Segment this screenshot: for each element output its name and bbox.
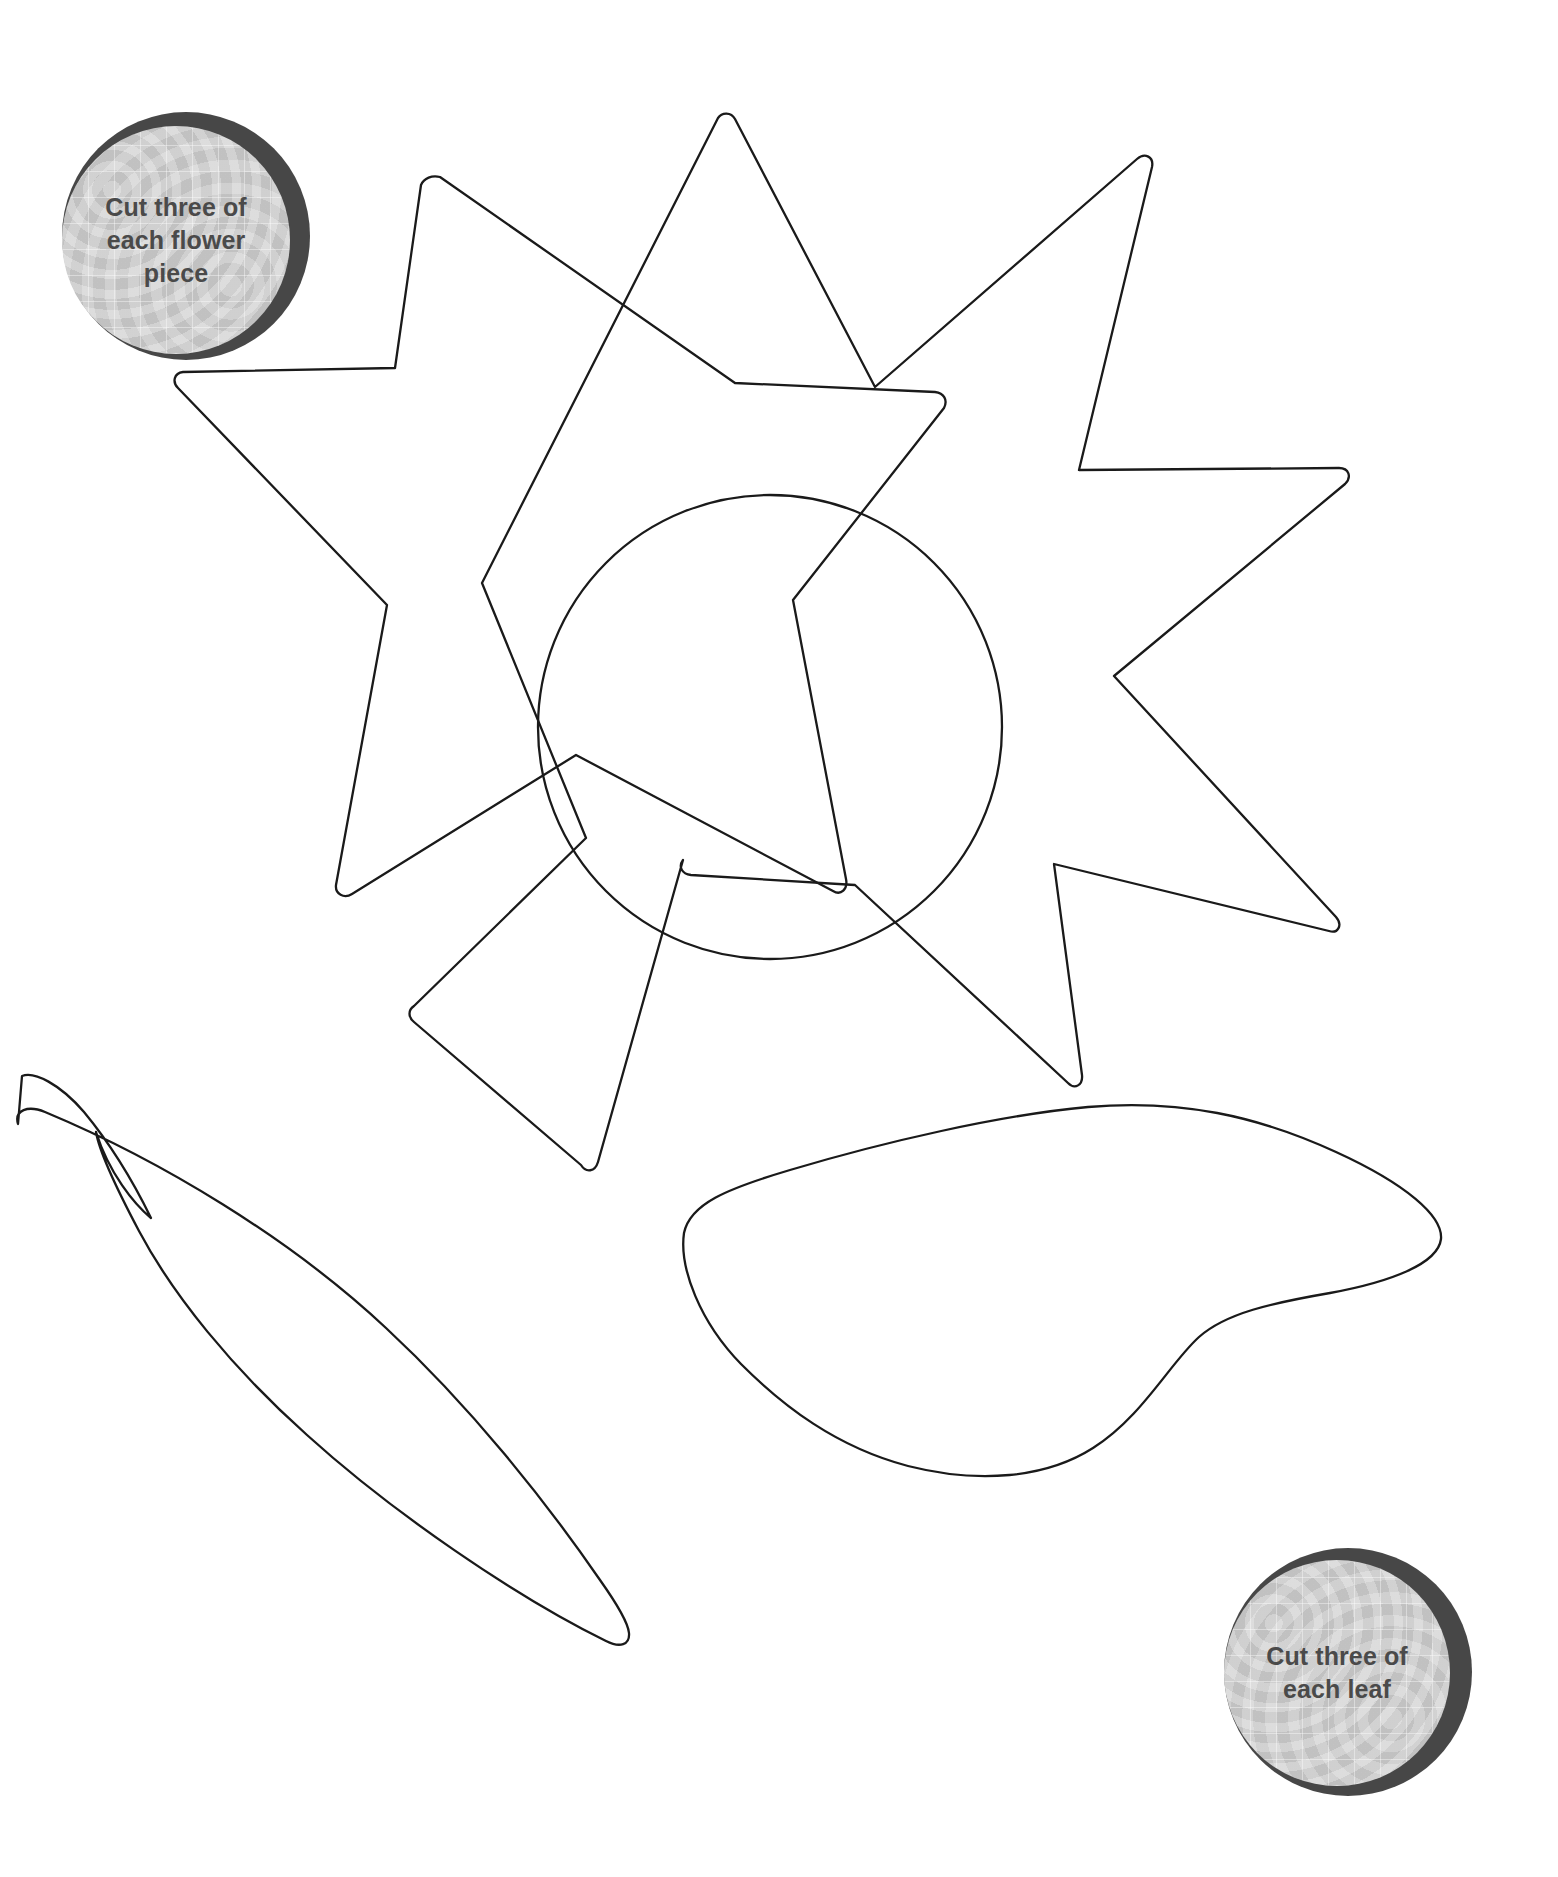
leaf-right-outline bbox=[683, 1105, 1441, 1476]
badge-face: Cut three of each leaf bbox=[1224, 1560, 1450, 1786]
pattern-sheet: Cut three of each flower piece Cut three… bbox=[0, 0, 1558, 1877]
badge-leaf-label: Cut three of each leaf bbox=[1266, 1640, 1407, 1706]
flower-center-circle bbox=[538, 495, 1002, 959]
badge-flower-label: Cut three of each flower piece bbox=[105, 191, 246, 290]
leaf-left-outline bbox=[17, 1075, 629, 1645]
flower-star-b-outline bbox=[410, 114, 1349, 1171]
badge-cut-three-leaf: Cut three of each leaf bbox=[1224, 1548, 1472, 1796]
badge-face: Cut three of each flower piece bbox=[62, 126, 290, 354]
badge-cut-three-flower: Cut three of each flower piece bbox=[62, 112, 310, 360]
